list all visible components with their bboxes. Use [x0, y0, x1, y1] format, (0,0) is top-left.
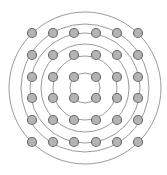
grid-dot — [28, 116, 37, 125]
grid-dot — [134, 116, 143, 125]
grid-dot — [134, 73, 143, 82]
grid-dot — [70, 116, 79, 125]
grid-dot — [113, 94, 122, 103]
grid-dot — [134, 94, 143, 103]
grid-dot — [70, 94, 79, 103]
grid-dot — [113, 51, 122, 60]
grid-dot — [92, 73, 101, 82]
diagram-canvas — [0, 0, 167, 175]
grid-dot — [92, 94, 101, 103]
grid-dot — [113, 73, 122, 82]
grid-dot — [49, 51, 58, 60]
grid-dot — [49, 29, 58, 38]
concentric-circles-diagram — [0, 0, 167, 175]
grid-dot — [28, 94, 37, 103]
grid-dot — [28, 51, 37, 60]
ring-2 — [21, 24, 149, 152]
ring-5 — [53, 56, 117, 120]
grid-dot — [49, 138, 58, 147]
grid-dot — [70, 51, 79, 60]
grid-dot — [70, 73, 79, 82]
grid-dot — [49, 94, 58, 103]
grid-dot — [28, 29, 37, 38]
grid-dot — [49, 73, 58, 82]
grid-dot — [92, 138, 101, 147]
grid-dot — [134, 138, 143, 147]
grid-dot — [134, 51, 143, 60]
grid-dot — [113, 138, 122, 147]
grid-dot — [134, 29, 143, 38]
grid-dot — [113, 29, 122, 38]
grid-dot — [49, 116, 58, 125]
grid-dot — [70, 138, 79, 147]
grid-dot — [92, 51, 101, 60]
grid-dot — [70, 29, 79, 38]
grid-dot — [28, 73, 37, 82]
grid-dot — [28, 138, 37, 147]
dot-grid — [28, 29, 143, 147]
grid-dot — [92, 29, 101, 38]
grid-dot — [113, 116, 122, 125]
grid-dot — [92, 116, 101, 125]
ring-3 — [30, 33, 140, 143]
